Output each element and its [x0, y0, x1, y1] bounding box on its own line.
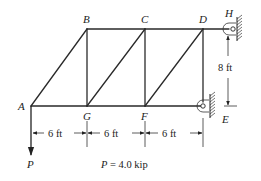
member-GC [87, 29, 145, 106]
label-A: A [17, 100, 25, 112]
pin-H [231, 27, 235, 31]
label-E: E [221, 113, 229, 125]
truss-diagram: 8 ft 6 ft 6 ft 6 ft A B C D H G F E [0, 0, 261, 181]
caption: P = 4.0 kip [100, 159, 148, 170]
dimension-horizontal: 6 ft 6 ft 6 ft [33, 118, 203, 147]
label-B: B [83, 13, 90, 25]
label-H: H [224, 7, 234, 19]
caption-value: = 4.0 kip [107, 159, 147, 170]
dimension-vertical: 8 ft [218, 36, 237, 106]
truss-members [31, 29, 229, 106]
label-P: P [26, 158, 34, 170]
pin-E [201, 104, 205, 108]
dimension-AG: 6 ft [48, 128, 62, 139]
dimension-8ft: 8 ft [218, 62, 232, 73]
support-E [197, 92, 215, 118]
label-G: G [83, 110, 91, 122]
label-F: F [140, 110, 148, 122]
label-D: D [198, 13, 207, 25]
wall-hatch-E [210, 92, 215, 117]
label-C: C [141, 13, 149, 25]
dimension-FE: 6 ft [162, 128, 176, 139]
member-FD [145, 29, 203, 106]
member-AB [31, 29, 87, 106]
dimension-GF: 6 ft [104, 128, 118, 139]
wall-hatch-H [237, 15, 242, 40]
